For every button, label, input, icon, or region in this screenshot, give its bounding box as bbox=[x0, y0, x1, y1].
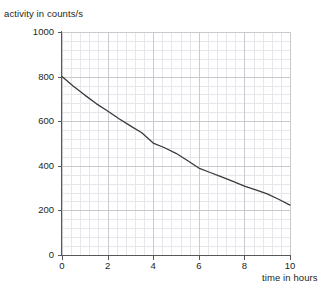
major-gridlines bbox=[62, 32, 291, 256]
plot-canvas bbox=[0, 0, 323, 290]
axis-lines bbox=[62, 31, 292, 256]
minor-gridlines bbox=[62, 32, 291, 256]
axis-tick-marks bbox=[58, 33, 291, 260]
data-curve bbox=[62, 77, 290, 205]
activity-decay-chart: activity in counts/s time in hours 02004… bbox=[0, 0, 323, 290]
decay-curve-path bbox=[62, 77, 290, 205]
